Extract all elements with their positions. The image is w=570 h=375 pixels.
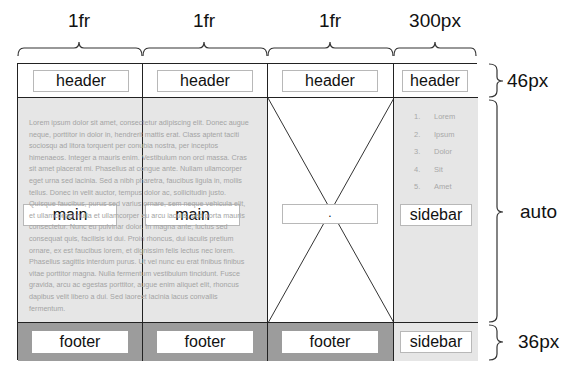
footer-area-label: footer	[32, 331, 128, 353]
list-text: Dolor	[434, 147, 452, 165]
list-text: Ipsum	[434, 130, 454, 148]
header-cell-1: header	[18, 64, 143, 98]
header-cell-4: header	[394, 64, 478, 98]
row-1-brace	[489, 64, 503, 97]
sidebar-list-item: 3.Dolor	[414, 147, 455, 165]
header-area-label: header	[157, 70, 253, 92]
list-number: 5.	[414, 182, 434, 200]
footer-cell-2: footer	[143, 323, 268, 361]
empty-area-label: .	[282, 204, 378, 224]
sidebar-area-label: sidebar	[400, 204, 472, 226]
sidebar-list-item: 2.Ipsum	[414, 130, 455, 148]
footer-area-label: footer	[282, 331, 378, 353]
sidebar-area-label: sidebar	[400, 331, 472, 353]
column-1-brace	[18, 42, 142, 56]
list-number: 3.	[414, 147, 434, 165]
row-2-size-label: auto	[520, 201, 557, 223]
list-number: 1.	[414, 112, 434, 130]
row-1-size-label: 46px	[507, 70, 548, 92]
column-2-brace	[143, 42, 267, 56]
footer-sidebar-cell: sidebar	[394, 323, 478, 361]
list-number: 4.	[414, 165, 434, 183]
header-cell-3: header	[268, 64, 394, 98]
list-text: Amet	[434, 182, 452, 200]
sidebar-cell: 1.Lorem 2.Ipsum 3.Dolor 4.Sit 5.Amet sid…	[394, 98, 478, 323]
empty-cell: .	[268, 98, 394, 323]
sidebar-list: 1.Lorem 2.Ipsum 3.Dolor 4.Sit 5.Amet	[414, 112, 455, 200]
list-number: 2.	[414, 130, 434, 148]
main-lorem-text: Lorem ipsum dolor sit amet, consectetur …	[29, 117, 251, 314]
sidebar-list-item: 1.Lorem	[414, 112, 455, 130]
footer-cell-3: footer	[268, 323, 394, 361]
footer-area-label: footer	[157, 331, 253, 353]
row-3-brace	[489, 325, 503, 360]
header-area-label: header	[282, 70, 378, 92]
column-3-brace	[268, 42, 393, 56]
header-area-label: header	[33, 70, 129, 92]
row-2-brace	[489, 100, 503, 322]
list-text: Lorem	[434, 112, 455, 130]
row-3-size-label: 36px	[518, 331, 559, 353]
sidebar-list-item: 4.Sit	[414, 165, 455, 183]
list-text: Sit	[434, 165, 443, 183]
column-4-brace	[394, 42, 476, 56]
footer-cell-1: footer	[18, 323, 143, 361]
header-cell-2: header	[143, 64, 268, 98]
header-area-label: header	[402, 70, 468, 92]
sidebar-list-item: 5.Amet	[414, 182, 455, 200]
